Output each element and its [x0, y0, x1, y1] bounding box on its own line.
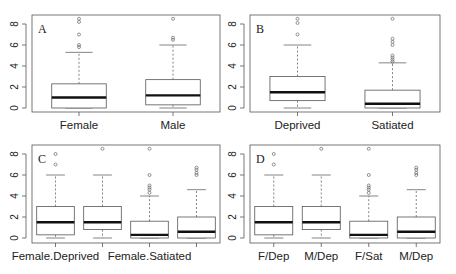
outlier-point — [272, 153, 275, 156]
iqr-box — [178, 217, 216, 238]
box-f-sat: F/Sat — [350, 147, 388, 262]
panel-letter: B — [256, 22, 264, 36]
y-tick-label: 0 — [227, 105, 238, 111]
outlier-point — [172, 36, 175, 39]
outlier-point — [195, 171, 198, 174]
y-tick-label: 8 — [227, 21, 238, 27]
box-male: Male — [146, 17, 201, 131]
y-tick-label: 2 — [9, 214, 20, 220]
x-tick-label: M/Dep — [304, 250, 338, 262]
outlier-point — [296, 21, 299, 24]
y-tick-label: 2 — [227, 214, 238, 220]
x-tick-label: M/Dep — [399, 250, 433, 262]
outlier-point — [54, 163, 57, 166]
panel-letter: A — [38, 22, 47, 36]
outlier-point — [78, 20, 81, 23]
panel-b: 02468BDeprivedSatiated — [227, 15, 440, 131]
panel-d: 02468DF/DepM/DepF/SatM/Dep — [227, 145, 440, 262]
x-tick-label: Female.Satiated — [108, 250, 192, 262]
box-deprived: Deprived — [270, 17, 325, 131]
iqr-box — [84, 207, 122, 230]
iqr-box — [146, 80, 201, 105]
outlier-point — [296, 33, 299, 36]
outlier-point — [148, 174, 151, 177]
iqr-box — [302, 207, 340, 230]
box-f-dep: F/Dep — [255, 153, 293, 263]
outlier-point — [272, 163, 275, 166]
y-tick-label: 6 — [227, 172, 238, 178]
y-tick-label: 2 — [9, 84, 20, 90]
outlier-point — [148, 147, 151, 150]
iqr-box — [397, 217, 435, 238]
outlier-point — [391, 17, 394, 20]
x-tick-label: Male — [161, 119, 186, 131]
y-tick-label: 0 — [227, 235, 238, 241]
box-male-deprived — [84, 147, 122, 247]
iqr-box — [255, 207, 293, 235]
y-tick-label: 6 — [227, 42, 238, 48]
outlier-point — [172, 17, 175, 20]
x-tick-label: Female.Deprived — [12, 250, 100, 262]
x-tick-label: F/Sat — [355, 250, 383, 262]
y-tick-label: 0 — [9, 105, 20, 111]
outlier-point — [367, 174, 370, 177]
outlier-point — [148, 191, 151, 194]
outlier-point — [296, 17, 299, 20]
outlier-point — [415, 166, 418, 169]
outlier-point — [391, 44, 394, 47]
box-male-satiated — [178, 166, 216, 247]
outlier-point — [367, 184, 370, 187]
outlier-point — [391, 54, 394, 57]
y-tick-label: 8 — [227, 151, 238, 157]
box-female: Female — [52, 17, 107, 131]
x-tick-label: Satiated — [371, 119, 413, 131]
x-tick-label: Female — [60, 119, 98, 131]
boxplot-figure: 02468AFemaleMale02468BDeprivedSatiated02… — [0, 0, 456, 274]
panel-letter: D — [256, 152, 265, 166]
outlier-point — [54, 153, 57, 156]
y-tick-label: 8 — [9, 151, 20, 157]
x-tick-label: Deprived — [274, 119, 320, 131]
outlier-point — [101, 147, 104, 150]
box-m-dep: M/Dep — [302, 147, 340, 262]
outlier-point — [78, 33, 81, 36]
outlier-point — [195, 166, 198, 169]
y-tick-label: 6 — [9, 172, 20, 178]
y-tick-label: 4 — [9, 63, 20, 69]
outlier-point — [391, 37, 394, 40]
outlier-point — [415, 171, 418, 174]
outlier-point — [367, 191, 370, 194]
iqr-box — [270, 77, 325, 101]
boxplot-canvas: 02468AFemaleMale02468BDeprivedSatiated02… — [0, 0, 456, 274]
x-tick-label: F/Dep — [258, 250, 289, 262]
y-tick-label: 2 — [227, 84, 238, 90]
y-tick-label: 4 — [9, 193, 20, 199]
box-female-satiated: Female.Satiated — [108, 147, 192, 262]
iqr-box — [52, 84, 107, 108]
outlier-point — [78, 17, 81, 20]
panel-c: 02468CFemale.DeprivedFemale.Satiated — [9, 145, 220, 262]
y-tick-label: 4 — [227, 63, 238, 69]
outlier-point — [367, 147, 370, 150]
y-tick-label: 0 — [9, 235, 20, 241]
outlier-point — [391, 40, 394, 43]
iqr-box — [365, 90, 420, 108]
outlier-point — [148, 184, 151, 187]
outlier-point — [78, 44, 81, 47]
iqr-box — [37, 207, 75, 235]
y-tick-label: 4 — [227, 193, 238, 199]
panel-a: 02468AFemaleMale — [9, 15, 220, 131]
outlier-point — [320, 147, 323, 150]
box-m-dep: M/Dep — [397, 166, 435, 262]
box-satiated: Satiated — [365, 17, 420, 131]
y-tick-label: 6 — [9, 42, 20, 48]
panel-letter: C — [38, 152, 46, 166]
y-tick-label: 8 — [9, 21, 20, 27]
